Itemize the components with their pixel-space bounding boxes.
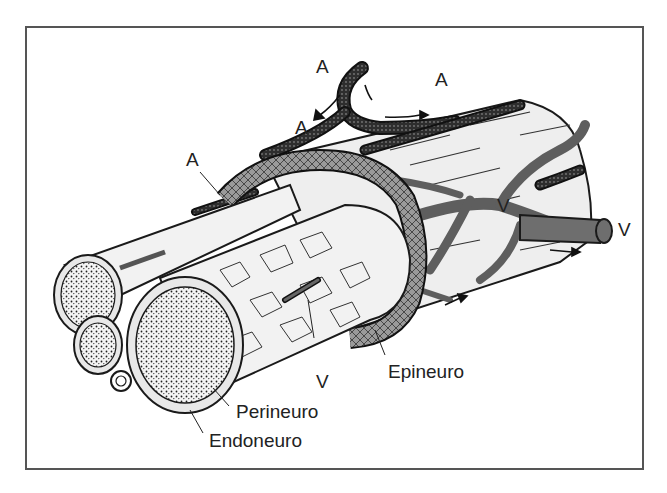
nerve-illustration — [0, 0, 667, 493]
label-vein-inner: V — [497, 196, 510, 215]
label-artery-top-right: A — [435, 70, 448, 89]
label-artery-top-left: A — [316, 57, 329, 76]
label-artery-mid: A — [295, 118, 308, 137]
label-vein-outer: V — [618, 220, 631, 239]
vein-main-trunk — [520, 215, 612, 243]
label-epineurium: Epineuro — [388, 362, 464, 381]
label-perineurium: Perineuro — [236, 402, 318, 421]
label-endoneurium: Endoneuro — [209, 431, 302, 450]
label-artery-left: A — [186, 150, 199, 169]
vessel-cross-section — [111, 371, 131, 391]
fascicle-cross-section-large — [127, 277, 243, 413]
label-vein-bottom: V — [316, 372, 329, 391]
fascicle-cross-section-small — [74, 316, 122, 374]
